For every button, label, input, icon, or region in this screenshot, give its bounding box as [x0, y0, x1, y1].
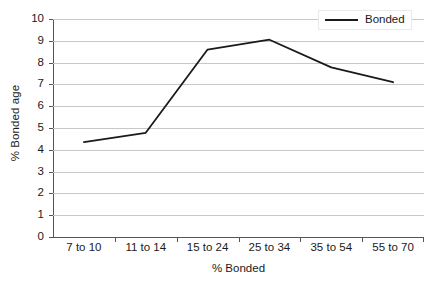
x-axis-tick-labels: 7 to 1011 to 1415 to 2425 to 3435 to 545…	[53, 241, 424, 259]
y-tickmark	[49, 63, 53, 64]
legend-label-bonded: Bonded	[365, 14, 405, 26]
y-tick-label: 2	[38, 188, 44, 200]
y-tickmark	[49, 215, 53, 216]
y-tickmark	[49, 84, 53, 85]
y-tickmark	[49, 106, 53, 107]
series-line-bonded	[84, 40, 393, 142]
legend-line-swatch-bonded	[325, 19, 358, 21]
x-tick-label: 11 to 14	[125, 241, 166, 253]
legend: Bonded	[318, 10, 412, 30]
series-lines	[53, 19, 424, 237]
y-axis-tick-labels: 012345678910	[24, 0, 48, 245]
y-tick-label: 3	[38, 166, 44, 178]
x-tick-label: 55 to 70	[372, 241, 414, 253]
x-tick-label: 25 to 34	[249, 241, 291, 253]
y-tick-label: 7	[38, 79, 44, 91]
y-tickmark	[49, 237, 53, 238]
x-tick-label: 7 to 10	[66, 241, 101, 253]
y-tick-label: 5	[38, 122, 44, 134]
y-tickmark	[49, 193, 53, 194]
plot-area	[53, 19, 424, 237]
y-tick-label: 10	[31, 13, 44, 25]
x-tick-label: 15 to 24	[187, 241, 229, 253]
y-tickmark	[49, 150, 53, 151]
y-axis-title-label: % Bonded age	[9, 84, 21, 161]
y-tick-label: 9	[38, 35, 44, 47]
y-tick-label: 4	[38, 144, 44, 156]
y-tickmark	[49, 19, 53, 20]
y-tick-label: 6	[38, 100, 44, 112]
y-tickmark	[49, 41, 53, 42]
y-tickmark	[49, 172, 53, 173]
y-tickmark	[49, 128, 53, 129]
y-tick-label: 8	[38, 57, 44, 69]
y-tick-label: 0	[38, 231, 44, 243]
x-tick-label: 35 to 54	[310, 241, 352, 253]
line-chart: % Bonded age 012345678910 7 to 1011 to 1…	[0, 0, 447, 299]
y-tick-label: 1	[38, 209, 44, 221]
x-axis-title: % Bonded	[53, 262, 424, 274]
